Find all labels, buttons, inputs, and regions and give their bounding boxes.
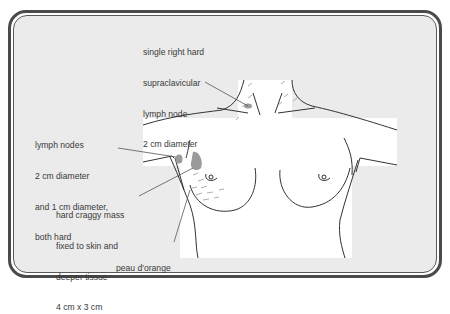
label-craggy-mass: hard craggy mass fixed to skin and deepe… (56, 190, 124, 314)
label-supraclavicular-node: single right hard supraclavicular lymph … (143, 27, 204, 160)
label-peau-dorange: peau d'orange (116, 243, 171, 284)
